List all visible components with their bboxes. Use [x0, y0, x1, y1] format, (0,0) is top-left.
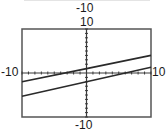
graph-window: [0, 0, 166, 132]
coordinate-axes: [22, 29, 151, 117]
